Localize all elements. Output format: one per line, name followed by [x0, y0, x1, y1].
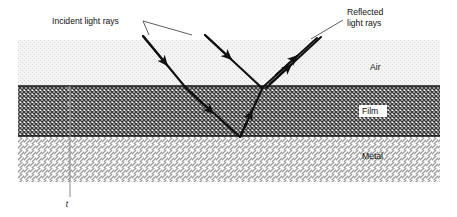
diagram-canvas: t Air Film Metal [0, 0, 457, 217]
reflected-light-rays-label-line1: Reflected [347, 7, 384, 17]
incident-leader-line-2 [143, 21, 149, 35]
reflected-light-rays-label-line2: light rays [347, 18, 381, 28]
figure-thin-film-reflection: t Air Film Metal [0, 0, 457, 217]
layer-label-metal: Metal [362, 151, 383, 161]
layer-label-film: Film [362, 106, 378, 116]
layer-label-air: Air [370, 62, 381, 72]
incident-leader-line-1 [143, 21, 192, 35]
callout-labels: Incident light rays Reflected light rays [52, 7, 384, 28]
incident-light-rays-label: Incident light rays [52, 16, 119, 26]
reflected-leader-line [311, 20, 343, 39]
callout-leader-lines [143, 20, 343, 39]
thickness-label: t [66, 200, 69, 209]
